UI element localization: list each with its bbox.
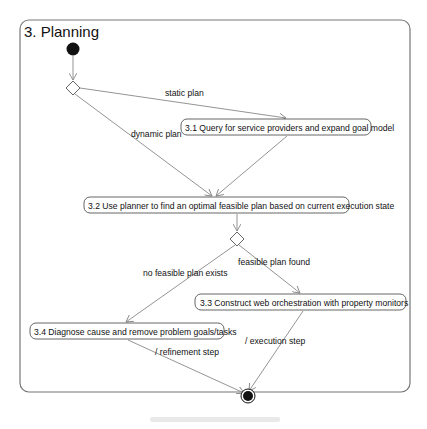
edge-label-execution-step: / execution step	[245, 336, 305, 346]
final-node	[243, 391, 253, 401]
diagram-title: 3. Planning	[24, 23, 99, 40]
figure-caption-faint	[150, 417, 280, 422]
edge-label-feasible-plan-found: feasible plan found	[238, 257, 310, 267]
activity-label-3-2: 3.2 Use planner to find an optimal feasi…	[88, 201, 394, 211]
activity-label-3-4: 3.4 Diagnose cause and remove problem go…	[34, 327, 237, 337]
planning-activity-diagram: 3. Planning static plan dynamic plan 3.1…	[0, 0, 427, 429]
edge-label-dynamic-plan: dynamic plan	[131, 129, 182, 139]
activity-label-3-3: 3.3 Construct web orchestration with pro…	[200, 298, 408, 308]
activity-label-3-1: 3.1 Query for service providers and expa…	[185, 123, 394, 133]
initial-node	[67, 43, 80, 56]
edge-label-static-plan: static plan	[165, 88, 204, 98]
edge-label-no-feasible-plan: no feasible plan exists	[143, 268, 228, 278]
edge-label-refinement-step: / refinement step	[155, 347, 219, 357]
